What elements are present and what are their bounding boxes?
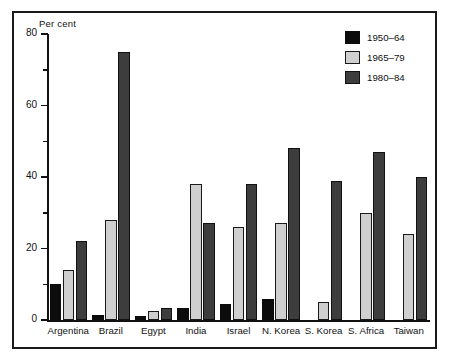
bar bbox=[233, 227, 245, 320]
y-axis-title: Per cent bbox=[39, 18, 76, 29]
legend-label: 1965–79 bbox=[367, 52, 405, 63]
bar bbox=[50, 284, 62, 320]
legend-item: 1965–79 bbox=[345, 48, 405, 66]
legend-swatch-icon bbox=[345, 31, 360, 44]
bar bbox=[177, 308, 189, 321]
bar bbox=[63, 270, 75, 320]
bar bbox=[92, 315, 104, 320]
y-tick-label-40: 40 bbox=[15, 170, 37, 181]
bar bbox=[135, 316, 147, 320]
x-tick-label: Taiwan bbox=[381, 325, 436, 336]
bar-group bbox=[177, 34, 215, 320]
y-tick-label-60: 60 bbox=[15, 99, 37, 110]
x-axis-line bbox=[47, 320, 430, 322]
bar-group bbox=[262, 34, 300, 320]
bar bbox=[288, 148, 300, 320]
bar bbox=[275, 223, 287, 320]
chart-legend: 1950–641965–791980–84 bbox=[345, 28, 405, 88]
legend-item: 1950–64 bbox=[345, 28, 405, 46]
bar-group bbox=[135, 34, 173, 320]
legend-item: 1980–84 bbox=[345, 68, 405, 86]
bar-group bbox=[220, 34, 258, 320]
y-tick-label-0: 0 bbox=[15, 313, 37, 324]
bar bbox=[360, 213, 372, 320]
bar bbox=[190, 184, 202, 320]
bar bbox=[262, 299, 274, 320]
legend-label: 1980–84 bbox=[367, 72, 405, 83]
bar bbox=[161, 308, 173, 321]
bar bbox=[220, 304, 232, 320]
bar bbox=[373, 152, 385, 320]
bar-group bbox=[305, 34, 343, 320]
bar-chart-figure: Per cent 020406080 ArgentinaBrazilEgyptI… bbox=[0, 0, 449, 360]
bar bbox=[331, 181, 343, 320]
legend-swatch-icon bbox=[345, 51, 360, 64]
legend-swatch-icon bbox=[345, 71, 360, 84]
bar-group bbox=[92, 34, 130, 320]
bar bbox=[416, 177, 428, 320]
bar bbox=[148, 311, 160, 320]
bar-group bbox=[50, 34, 88, 320]
bar bbox=[246, 184, 258, 320]
y-tick-label-80: 80 bbox=[15, 27, 37, 38]
bar bbox=[76, 241, 88, 320]
bar bbox=[403, 234, 415, 320]
y-tick-label-20: 20 bbox=[15, 242, 37, 253]
legend-label: 1950–64 bbox=[367, 32, 405, 43]
bar bbox=[203, 223, 215, 320]
bar bbox=[105, 220, 117, 320]
bar bbox=[118, 52, 130, 320]
bar bbox=[318, 302, 330, 320]
